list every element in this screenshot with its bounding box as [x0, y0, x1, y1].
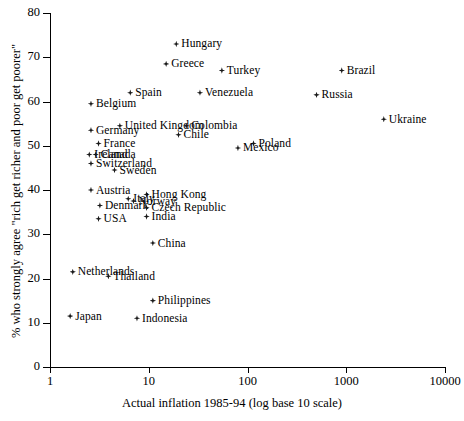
- data-point-label: Denmark: [105, 198, 149, 212]
- x-axis-tick-label: 10: [119, 374, 179, 388]
- data-point-label: Turkey: [227, 63, 260, 77]
- data-point-label: Indonesia: [142, 311, 188, 325]
- y-axis-tick: [43, 367, 50, 368]
- y-axis-tick: [43, 13, 50, 14]
- data-point-label: Chile: [183, 127, 208, 141]
- y-axis-tick: [43, 279, 50, 280]
- x-axis-tick: [50, 367, 51, 373]
- y-axis-tick: [43, 102, 50, 103]
- y-axis-tick: [43, 57, 50, 58]
- x-axis-tick-label: 1000: [316, 374, 376, 388]
- y-axis-title: % who strongly agree "rich get richer an…: [9, 21, 23, 361]
- x-axis-tick: [346, 367, 347, 373]
- data-point-label: Venezuela: [205, 85, 253, 99]
- data-point-label: Brazil: [347, 63, 376, 77]
- x-axis-tick-label: 10000: [415, 374, 464, 388]
- x-axis-tick-label: 100: [218, 374, 278, 388]
- data-point-label: Belgium: [96, 96, 136, 110]
- x-axis-tick: [445, 367, 446, 373]
- data-point-label: Hungary: [181, 36, 222, 50]
- data-point-label: Philippines: [158, 293, 211, 307]
- x-axis-tick: [149, 367, 150, 373]
- y-axis-tick: [43, 323, 50, 324]
- data-point-label: Russia: [322, 87, 353, 101]
- y-axis-tick-label: 80: [6, 6, 40, 19]
- y-axis-tick-label: 0: [6, 360, 40, 373]
- data-point-label: Thailand: [113, 269, 155, 283]
- data-point-label: Japan: [75, 309, 102, 323]
- data-point-label: USA: [104, 211, 127, 225]
- y-axis-tick: [43, 190, 50, 191]
- y-axis-tick: [43, 234, 50, 235]
- x-axis-title: Actual inflation 1985-94 (log base 10 sc…: [0, 396, 464, 410]
- y-axis-tick: [43, 146, 50, 147]
- data-point-label: Spain: [135, 85, 162, 99]
- data-point-label: Ukraine: [389, 112, 427, 126]
- x-axis-tick-label: 1: [20, 374, 80, 388]
- data-point-label: Austria: [96, 183, 131, 197]
- data-point-label: Sweden: [120, 163, 157, 177]
- data-point-label: India: [152, 209, 176, 223]
- data-point-label: Germany: [96, 123, 140, 137]
- data-point-label: China: [158, 236, 186, 250]
- data-point-label: Greece: [171, 56, 204, 70]
- data-point-label: Mexico: [243, 140, 279, 154]
- scatter-chart: 01020304050607080 110100100010000 Hungar…: [0, 0, 464, 421]
- x-axis-tick: [248, 367, 249, 373]
